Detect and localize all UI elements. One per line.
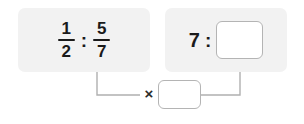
fraction-bar bbox=[93, 39, 110, 41]
given-ratio-expression: 1 2 : 5 7 bbox=[18, 8, 150, 72]
given-ratio-panel: 1 2 : 5 7 bbox=[18, 8, 150, 72]
ratio-colon: : bbox=[203, 31, 213, 50]
multiplication-sign: × bbox=[142, 85, 156, 103]
denominator: 2 bbox=[60, 42, 73, 60]
whole-number-seven: 7 bbox=[189, 30, 200, 50]
target-ratio-panel: 7 : bbox=[165, 8, 287, 72]
ratio-colon: : bbox=[79, 31, 89, 50]
numerator: 5 bbox=[95, 20, 108, 38]
fraction-five-sevenths: 5 7 bbox=[93, 20, 110, 60]
factor-input-box[interactable] bbox=[158, 80, 201, 109]
numerator: 1 bbox=[60, 20, 73, 38]
target-answer-box[interactable] bbox=[216, 21, 263, 59]
worksheet-canvas: 1 2 : 5 7 7 : × bbox=[0, 0, 304, 124]
denominator: 7 bbox=[95, 42, 108, 60]
fraction-one-half: 1 2 bbox=[58, 20, 75, 60]
target-ratio-expression: 7 : bbox=[165, 8, 287, 72]
fraction-bar bbox=[58, 39, 75, 41]
